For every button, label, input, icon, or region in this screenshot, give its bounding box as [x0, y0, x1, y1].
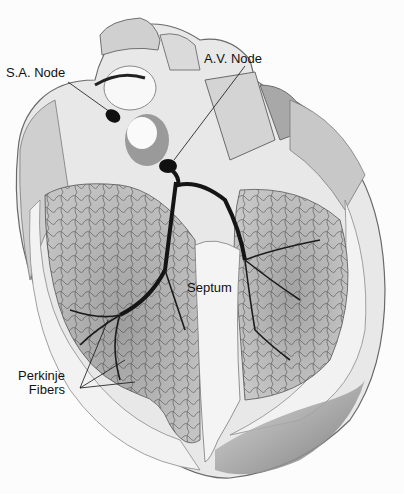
- perkinje-fibers-label: Perkinje Fibers: [18, 369, 65, 397]
- av-node-label: A.V. Node: [204, 52, 262, 66]
- heart-diagram: S.A. Node A.V. Node Septum Perkinje Fibe…: [0, 0, 404, 494]
- sa-node-label: S.A. Node: [6, 66, 65, 80]
- septum-label: Septum: [187, 281, 232, 295]
- perkinje-label-line2: Fibers: [18, 383, 65, 397]
- perkinje-label-line1: Perkinje: [18, 369, 65, 383]
